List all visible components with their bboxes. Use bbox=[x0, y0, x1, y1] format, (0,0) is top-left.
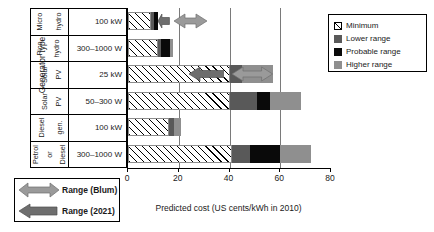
double-arrow-icon bbox=[232, 66, 273, 82]
generator-type-line2: PV bbox=[55, 70, 62, 80]
generator-type-line2: hydro bbox=[55, 13, 62, 31]
row-label-table: Micro hydro 100 kW Pico hydro 300–1000 W… bbox=[30, 8, 127, 168]
x-tick bbox=[279, 168, 280, 172]
generator-type-cell: Diesel gen. bbox=[31, 115, 69, 141]
legend-item: Probable range bbox=[334, 45, 426, 58]
generator-type-line2: gen. bbox=[56, 121, 63, 135]
generator-type-line2: PV bbox=[55, 96, 62, 106]
generator-type-cell: Pico hydro bbox=[31, 36, 69, 62]
minimum-segment bbox=[128, 118, 169, 136]
table-row: Solar PV 50–300 W bbox=[31, 89, 126, 116]
higher-range-segment bbox=[270, 92, 300, 110]
table-row: Petrol or Diesel 300–1000 W bbox=[31, 142, 126, 169]
bar-row bbox=[128, 114, 330, 141]
generator-size-cell: 300–1000 W bbox=[77, 142, 122, 169]
probable-range-segment bbox=[257, 92, 270, 110]
generator-type-line2: or bbox=[45, 152, 52, 158]
probable-range-segment bbox=[161, 39, 169, 57]
double-arrow-icon bbox=[174, 13, 207, 29]
bar-row bbox=[128, 88, 330, 115]
minimum-segment bbox=[128, 12, 151, 30]
generator-type-cell: Solar PV bbox=[31, 89, 69, 115]
generator-type-line1: Petrol bbox=[32, 145, 39, 164]
probable-range-segment bbox=[250, 145, 280, 163]
x-tick-label: 0 bbox=[125, 173, 130, 183]
generator-type-cell: Petrol or Diesel bbox=[31, 142, 69, 169]
table-row: Diesel gen. 100 kW bbox=[31, 115, 126, 142]
x-axis-caption: Predicted cost (US cents/kWh in 2010) bbox=[127, 203, 330, 213]
x-tick bbox=[178, 168, 179, 172]
left-arrow-icon bbox=[19, 203, 59, 219]
higher-range-segment bbox=[170, 39, 173, 57]
arrow-legend: Range (Blum) Range (2021) bbox=[14, 178, 120, 222]
x-tick-label: 40 bbox=[224, 173, 233, 183]
generator-type-line1: Diesel bbox=[38, 118, 45, 138]
generator-type-line1: Solar bbox=[41, 93, 48, 110]
legend-label: Probable range bbox=[346, 47, 401, 56]
legend-item: Minimum bbox=[334, 19, 426, 32]
x-tick-label: 80 bbox=[325, 173, 334, 183]
chart-figure: Generator type Micro hydro 100 kW Pico h… bbox=[0, 0, 434, 232]
minimum-segment bbox=[128, 92, 230, 110]
minimum-swatch-icon bbox=[334, 22, 342, 30]
higher-range-segment bbox=[280, 145, 310, 163]
x-tick bbox=[229, 168, 230, 172]
generator-size-cell: 25 kW bbox=[99, 62, 122, 88]
generator-type-line1: Pico bbox=[36, 41, 43, 55]
generator-type-cell: Solar PV bbox=[31, 62, 69, 88]
arrow-legend-label: Range (Blum) bbox=[62, 185, 117, 195]
generator-type-line1: Solar bbox=[41, 66, 48, 83]
generator-type-line3: Diesel bbox=[60, 145, 67, 165]
plot-area bbox=[127, 8, 330, 168]
generator-type-cell: Micro hydro bbox=[31, 9, 69, 35]
generator-size-cell: 100 kW bbox=[95, 115, 122, 141]
table-row: Micro hydro 100 kW bbox=[31, 9, 126, 36]
x-tick bbox=[330, 168, 331, 172]
arrow-legend-item: Range (2021) bbox=[15, 200, 119, 221]
generator-size-cell: 300–1000 W bbox=[77, 36, 122, 62]
legend-item: Higher range bbox=[334, 58, 426, 71]
higher-range-swatch-icon bbox=[334, 61, 342, 69]
bar-row bbox=[128, 141, 330, 168]
legend-label: Lower range bbox=[346, 34, 390, 43]
lower-range-segment bbox=[232, 145, 250, 163]
x-tick-label: 20 bbox=[173, 173, 182, 183]
generator-size-cell: 50–300 W bbox=[86, 89, 122, 115]
left-arrow-icon bbox=[189, 66, 225, 82]
minimum-segment bbox=[128, 145, 232, 163]
bar-row bbox=[128, 35, 330, 62]
double-arrow-icon bbox=[19, 182, 59, 198]
table-row: Pico hydro 300–1000 W bbox=[31, 36, 126, 63]
x-tick-label: 60 bbox=[275, 173, 284, 183]
arrow-legend-item: Range (Blum) bbox=[15, 179, 119, 200]
left-arrow-icon bbox=[158, 13, 169, 29]
generator-type-line2: hydro bbox=[53, 39, 60, 57]
legend-item: Lower range bbox=[334, 32, 426, 45]
lower-range-segment bbox=[230, 92, 258, 110]
generator-size-cell: 100 kW bbox=[95, 9, 122, 35]
generator-type-line1: Micro bbox=[36, 13, 43, 31]
probable-range-swatch-icon bbox=[334, 48, 342, 56]
x-tick bbox=[127, 168, 128, 172]
bar-row bbox=[128, 61, 330, 88]
table-row: Solar PV 25 kW bbox=[31, 62, 126, 89]
series-legend: Minimum Lower range Probable range Highe… bbox=[328, 14, 427, 72]
lower-range-swatch-icon bbox=[334, 35, 342, 43]
arrow-legend-label: Range (2021) bbox=[62, 206, 115, 216]
higher-range-segment bbox=[174, 118, 182, 136]
legend-label: Higher range bbox=[346, 60, 392, 69]
minimum-segment bbox=[128, 39, 158, 57]
legend-label: Minimum bbox=[346, 21, 378, 30]
